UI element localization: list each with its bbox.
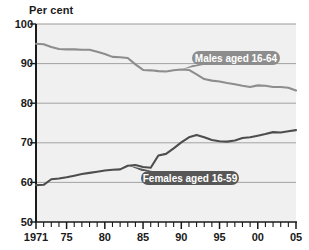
- x-tick-label: 80: [99, 232, 111, 243]
- x-axis-tick-labels: 197175808590950005: [0, 0, 309, 250]
- x-tick-label: 1971: [24, 232, 48, 243]
- x-tick-label: 95: [213, 232, 225, 243]
- x-tick-label: 00: [252, 232, 264, 243]
- x-tick-label: 05: [290, 232, 302, 243]
- x-tick-label: 85: [137, 232, 149, 243]
- x-tick-label: 75: [60, 232, 72, 243]
- employment-rate-line-chart: Per cent Males aged 16-64Females aged 16…: [0, 0, 309, 250]
- x-tick-label: 90: [175, 232, 187, 243]
